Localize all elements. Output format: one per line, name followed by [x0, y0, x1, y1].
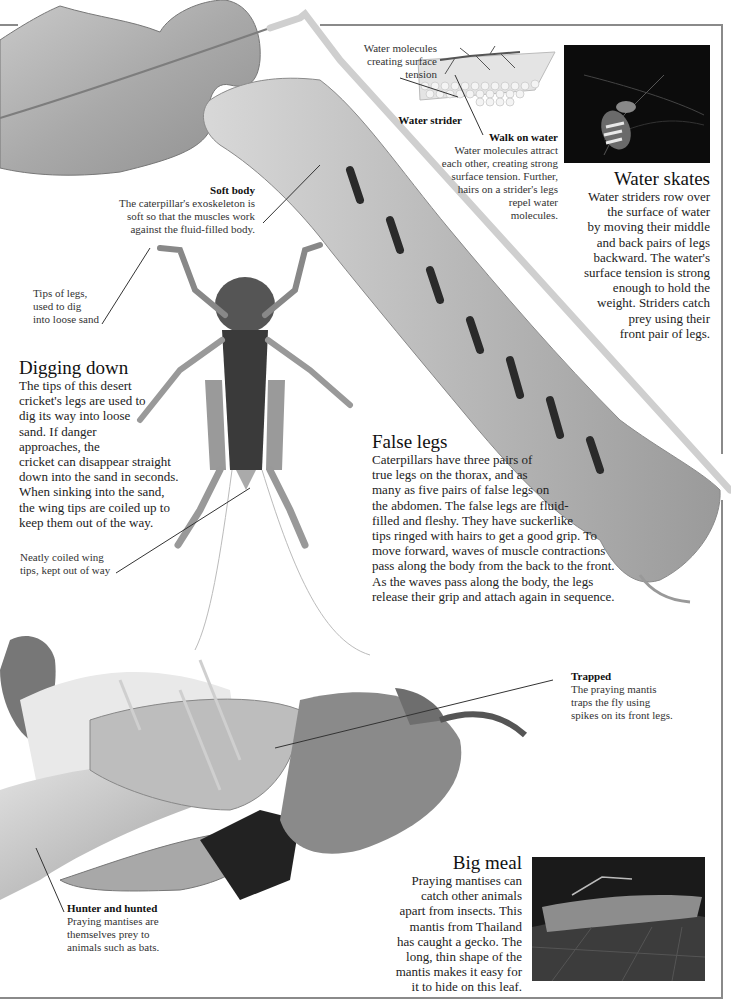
digging-down-text-narrow: The tips of this desert cricket's legs a…	[19, 378, 209, 454]
trapped-title: Trapped	[571, 670, 711, 683]
soft-body-title: Soft body	[100, 184, 255, 197]
walk-on-water-callout: Walk on water Water molecules attract ea…	[430, 131, 558, 222]
tips-of-legs-label: Tips of legs, used to dig into loose san…	[33, 287, 113, 326]
false-legs-section: False legs Caterpillars have three pairs…	[372, 431, 672, 604]
water-strider-diagram	[418, 46, 555, 106]
water-strider-photo	[564, 45, 710, 163]
digging-down-text-wide: cricket can disappear straight down into…	[19, 454, 209, 530]
big-meal-text: Praying mantises can catch other animals…	[370, 873, 522, 995]
water-skates-heading: Water skates	[560, 168, 710, 189]
digging-down-section: Digging down The tips of this desert cri…	[19, 357, 209, 530]
soft-body-text: The caterpillar's exoskeleton is soft so…	[119, 197, 255, 235]
walk-on-water-title: Walk on water	[430, 131, 558, 144]
mantis-gecko-photo	[532, 857, 705, 981]
walk-on-water-text: Water molecules attract each other, crea…	[442, 144, 558, 221]
soft-body-callout: Soft body The caterpillar's exoskeleton …	[100, 184, 255, 236]
big-meal-section: Big meal Praying mantises can catch othe…	[370, 852, 522, 995]
trapped-text: The praying mantis traps the fly using s…	[571, 683, 673, 721]
trapped-callout: Trapped The praying mantis traps the fly…	[571, 670, 711, 722]
wing-tips-label: Neatly coiled wing tips, kept out of way	[20, 551, 120, 577]
false-legs-text: Caterpillars have three pairs of true le…	[372, 452, 672, 604]
water-skates-text: Water striders row over the surface of w…	[560, 189, 710, 341]
hunter-and-hunted-title: Hunter and hunted	[67, 902, 177, 915]
big-meal-heading: Big meal	[370, 852, 522, 873]
water-molecules-label: Water molecules creating surface tension	[345, 42, 437, 81]
hunter-and-hunted-text: Praying mantises are themselves prey to …	[67, 915, 159, 953]
digging-down-heading: Digging down	[19, 357, 209, 378]
false-legs-heading: False legs	[372, 431, 672, 452]
water-strider-label: Water strider	[345, 114, 462, 127]
water-skates-section: Water skates Water striders row over the…	[560, 168, 710, 341]
hunter-and-hunted-callout: Hunter and hunted Praying mantises are t…	[67, 902, 177, 954]
